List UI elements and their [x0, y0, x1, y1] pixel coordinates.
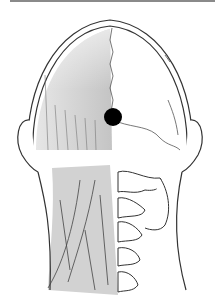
cervical-vertebrae: [118, 171, 169, 292]
skull-sutures: [110, 28, 180, 150]
anatomy-illustration: [0, 0, 215, 303]
marker-dot: [104, 108, 122, 126]
